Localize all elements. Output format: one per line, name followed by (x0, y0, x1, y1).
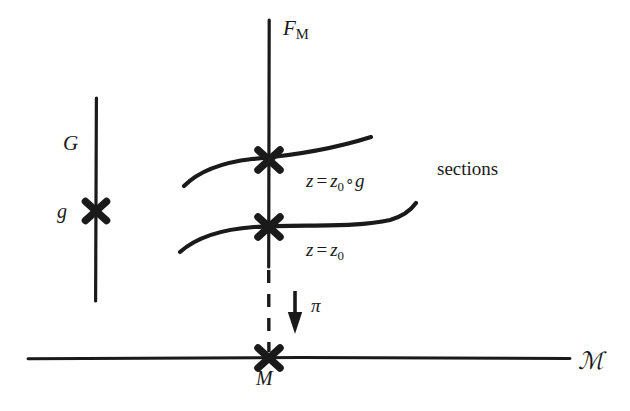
composition-operator-icon: ∘ (344, 173, 355, 189)
fibre-bundle-label-main: F (283, 16, 296, 40)
base-space-label: ℳ (578, 349, 604, 373)
sections-caption: sections (437, 159, 498, 178)
lower-section-rhs: z (330, 239, 337, 260)
upper-section-equals: = (313, 170, 330, 191)
projection-label: π (311, 296, 321, 315)
lower-section-label: z=z0 (306, 240, 344, 263)
lower-section-rhs-subscript: 0 (338, 248, 344, 263)
upper-section-rhs: z (330, 170, 337, 191)
base-point-label: M (256, 368, 273, 388)
diagram-canvas (0, 0, 630, 411)
upper-section-tail: g (355, 170, 365, 191)
base-line (28, 358, 570, 359)
fibre-bundle-diagram: FM G g z=z0∘g z=z0 sections π M ℳ (0, 0, 630, 411)
lower-section-equals: = (313, 239, 330, 260)
fibre-bundle-label: FM (283, 18, 309, 42)
group-line (96, 98, 97, 301)
section-lower-curve (180, 203, 416, 252)
fibre-bundle-label-subscript: M (296, 26, 309, 42)
projection-arrow (288, 291, 302, 334)
group-line-label: G (63, 133, 78, 154)
group-element-label: g (57, 201, 67, 221)
upper-section-label: z=z0∘g (306, 171, 364, 194)
